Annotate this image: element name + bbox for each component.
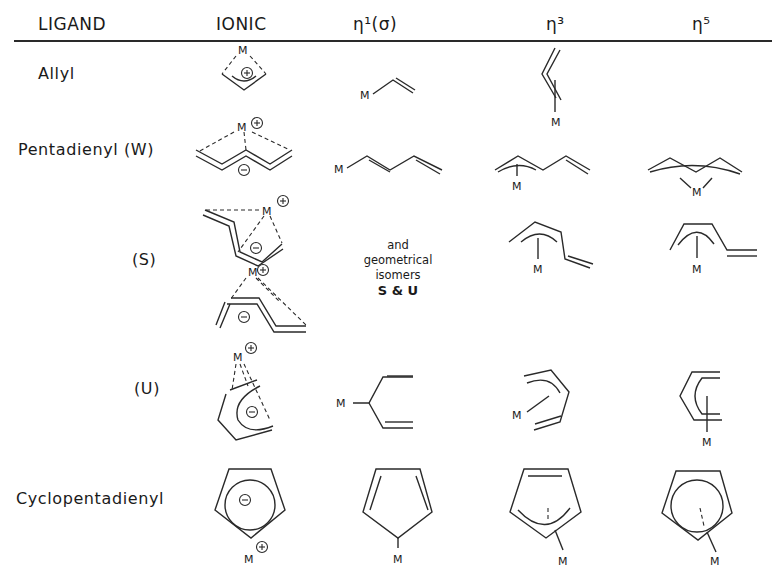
svg-text:M: M: [336, 397, 346, 410]
pentadienyl-w-ionic: M: [196, 118, 292, 176]
pentadienyl-w-eta1: M: [334, 156, 442, 176]
svg-text:M: M: [393, 553, 403, 566]
pentadienyl-s-ionic: M M: [203, 196, 306, 333]
svg-text:M: M: [237, 121, 247, 134]
allyl-eta1: M: [360, 78, 415, 102]
svg-text:M: M: [533, 263, 543, 276]
svg-text:M: M: [238, 44, 248, 57]
pentadienyl-s-eta3: M: [509, 222, 593, 276]
svg-text:M: M: [233, 351, 243, 364]
svg-text:M: M: [551, 116, 561, 129]
pentadienyl-u-ionic: M: [218, 343, 273, 441]
pentadienyl-u-eta3: M: [512, 370, 569, 430]
pentadienyl-s-eta5: M: [670, 224, 757, 276]
svg-text:M: M: [710, 555, 720, 568]
svg-text:M: M: [360, 89, 370, 102]
cyclopentadienyl-eta3: M: [510, 469, 581, 568]
svg-text:M: M: [244, 553, 254, 566]
svg-text:M: M: [558, 555, 568, 568]
pentadienyl-u-eta5: M: [680, 372, 722, 449]
svg-text:M: M: [248, 266, 258, 279]
svg-text:M: M: [692, 186, 702, 199]
cyclopentadienyl-ionic: M: [215, 469, 285, 566]
pentadienyl-u-eta1: M: [336, 376, 413, 428]
svg-text:M: M: [512, 180, 522, 193]
structure-diagrams: M M M M M M M: [0, 0, 772, 579]
svg-text:M: M: [692, 263, 702, 276]
svg-text:M: M: [512, 409, 522, 422]
cyclopentadienyl-eta5: M: [662, 471, 732, 568]
allyl-eta3: M: [542, 48, 561, 129]
svg-text:M: M: [334, 163, 344, 176]
cyclopentadienyl-eta1: M: [363, 469, 432, 566]
svg-text:M: M: [702, 436, 712, 449]
pentadienyl-w-eta5: M: [648, 158, 742, 199]
pentadienyl-w-eta3: M: [495, 156, 590, 193]
allyl-ionic: M: [222, 44, 266, 90]
